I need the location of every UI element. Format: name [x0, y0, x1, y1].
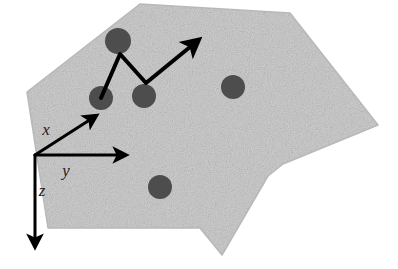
particle-top: [105, 28, 131, 54]
figure-root: xyz: [0, 0, 398, 269]
particle-right: [221, 75, 245, 99]
diagram-canvas: xyz: [0, 0, 398, 269]
particle-middle: [132, 84, 156, 108]
axis-y-label: y: [60, 161, 70, 180]
surface-patch-group: [27, 4, 378, 255]
axis-z-label: z: [38, 181, 46, 200]
particle-bottom: [148, 175, 172, 199]
rough-surface-patch: [27, 4, 378, 255]
axis-x-label: x: [41, 120, 50, 139]
